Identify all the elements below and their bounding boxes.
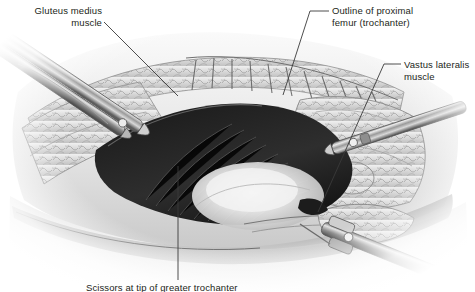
trochanter-prominence <box>192 162 324 230</box>
label-vastus-lateralis-line2: muscle <box>404 71 469 83</box>
label-gluteus-medius-line1: Gluteus medius <box>6 5 102 17</box>
surgical-illustration <box>0 0 475 292</box>
label-vastus-lateralis: Vastus lateralis muscle <box>404 59 469 82</box>
figure-container: Gluteus medius muscle Outline of proxima… <box>0 0 475 292</box>
label-vastus-lateralis-line1: Vastus lateralis <box>404 59 469 71</box>
label-outline-proximal-femur-line2: femur (trochanter) <box>332 17 413 29</box>
illustration-body <box>0 0 475 292</box>
label-gluteus-medius-line2: muscle <box>6 17 102 29</box>
label-outline-proximal-femur-line1: Outline of proximal <box>332 5 413 17</box>
label-scissors-at-tip: Scissors at tip of greater trochanter <box>86 282 238 292</box>
label-gluteus-medius: Gluteus medius muscle <box>6 5 102 28</box>
label-scissors-at-tip-line1: Scissors at tip of greater trochanter <box>86 282 238 292</box>
label-outline-proximal-femur: Outline of proximal femur (trochanter) <box>332 5 413 28</box>
